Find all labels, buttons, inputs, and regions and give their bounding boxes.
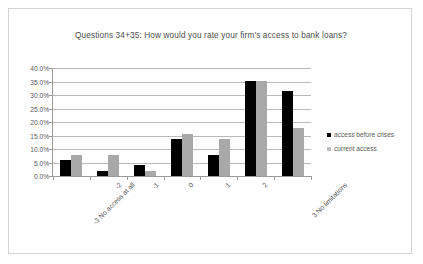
bar-current-access[interactable] [145,171,156,176]
y-axis-tick-mark [49,109,52,110]
bar-current-access[interactable] [108,155,119,176]
y-axis-tick-mark [49,82,52,83]
y-axis-tick-mark [49,136,52,137]
x-axis-category-label: 1 [224,181,232,189]
x-axis-category-label: 0 [187,181,195,189]
y-axis-tick-label: 30.0% [9,92,49,99]
x-axis-category-label: -3 No access at all [92,181,136,225]
bar-access-before-crises[interactable] [208,155,219,176]
y-axis-tick-mark [49,149,52,150]
y-axis-tick-mark [49,122,52,123]
y-axis-tick-label: 35.0% [9,78,49,85]
legend-item[interactable]: access before crises [327,131,413,138]
x-axis-tick-mark [311,176,312,180]
y-axis-tick-label: 15.0% [9,132,49,139]
x-axis-tick-mark [164,176,165,180]
bar-current-access[interactable] [293,128,304,176]
y-axis-tick-label: 0.0% [9,173,49,180]
bar-group [164,68,201,176]
legend-swatch-icon [327,147,331,151]
bar-group [237,68,274,176]
y-axis-tick-label: 10.0% [9,146,49,153]
bar-group [53,68,90,176]
x-axis-tick-mark [127,176,128,180]
chart-legend: access before crisescurrent access [327,131,413,159]
bar-group [90,68,127,176]
y-axis-tick-mark [49,176,52,177]
plot-area [53,68,311,176]
y-axis-tick-label: 25.0% [9,105,49,112]
bar-current-access[interactable] [71,155,82,176]
y-axis-tick-label: 20.0% [9,119,49,126]
bar-access-before-crises[interactable] [60,160,71,176]
legend-swatch-icon [327,133,331,137]
gridline [53,176,311,177]
bar-access-before-crises[interactable] [245,81,256,176]
legend-item-label: access before crises [334,131,394,138]
chart-title: Questions 34+35: How would you rate your… [9,31,413,40]
legend-item[interactable]: current access [327,145,413,152]
y-axis-tick-mark [49,95,52,96]
x-axis-tick-mark [53,176,54,180]
bar-group [274,68,311,176]
chart-container: Questions 34+35: How would you rate your… [8,8,412,254]
x-axis-tick-mark [274,176,275,180]
legend-item-label: current access [334,145,377,152]
bar-current-access[interactable] [219,139,230,176]
y-axis-tick-mark [49,68,52,69]
bar-access-before-crises[interactable] [134,165,145,176]
x-axis-category-label: 3 No limitations [310,181,348,219]
x-axis-tick-mark [200,176,201,180]
bar-group [127,68,164,176]
y-axis-tick-labels: 0.0%5.0%10.0%15.0%20.0%25.0%30.0%35.0%40… [9,68,49,176]
y-axis-tick-mark [49,163,52,164]
y-axis-tick-label: 5.0% [9,159,49,166]
x-axis-tick-mark [90,176,91,180]
bar-access-before-crises[interactable] [97,171,108,176]
x-axis-tick-mark [237,176,238,180]
bar-access-before-crises[interactable] [171,139,182,176]
y-axis-tick-label: 40.0% [9,65,49,72]
x-axis-category-label: -1 [151,181,160,190]
bar-current-access[interactable] [256,81,267,176]
bar-current-access[interactable] [182,134,193,176]
bar-access-before-crises[interactable] [282,91,293,176]
x-axis-category-label: 2 [261,181,269,189]
bar-group [200,68,237,176]
